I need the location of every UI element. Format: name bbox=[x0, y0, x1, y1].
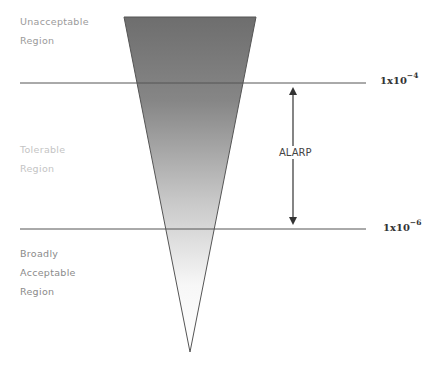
unacceptable-region-label: Unacceptable Region bbox=[20, 12, 89, 50]
threshold-exponent: −6 bbox=[410, 218, 422, 227]
alarp-diagram bbox=[0, 0, 433, 369]
tolerable-region-label: Tolerable Region bbox=[20, 140, 65, 178]
label-line: Acceptable bbox=[20, 263, 76, 282]
risk-triangle bbox=[124, 17, 256, 352]
threshold-base: 1x10 bbox=[380, 75, 407, 86]
label-line: Broadly bbox=[20, 244, 76, 263]
label-line: Unacceptable bbox=[20, 12, 89, 31]
label-line: Tolerable bbox=[20, 140, 65, 159]
label-line: Region bbox=[20, 159, 65, 178]
lower-threshold-value: 1x10−6 bbox=[383, 220, 421, 233]
label-line: Region bbox=[20, 31, 89, 50]
upper-threshold-value: 1x10−4 bbox=[380, 73, 418, 86]
broadly-acceptable-region-label: Broadly Acceptable Region bbox=[20, 244, 76, 301]
label-line: Region bbox=[20, 282, 76, 301]
threshold-base: 1x10 bbox=[383, 222, 410, 233]
threshold-exponent: −4 bbox=[407, 71, 419, 80]
alarp-label: ALARP bbox=[279, 146, 311, 159]
